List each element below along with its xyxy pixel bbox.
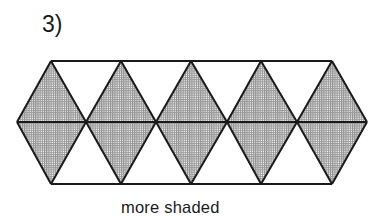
caption: more shaded <box>121 197 220 217</box>
shaded-hexagon-figure <box>0 0 390 222</box>
